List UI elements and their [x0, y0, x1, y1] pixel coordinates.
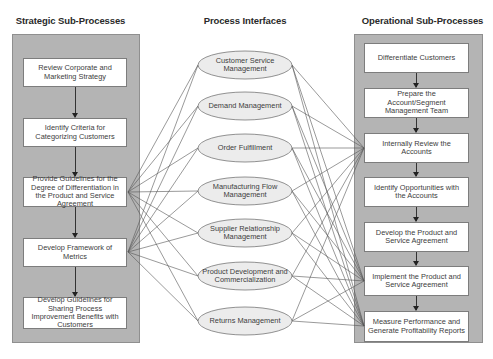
interface-label-4: Supplier Relationship Management	[202, 219, 288, 247]
link-interface-0-operational-5	[292, 65, 364, 281]
link-interface-2-operational-5	[292, 148, 364, 281]
link-strategic-2-interface-3	[128, 191, 198, 192]
link-interface-4-operational-2	[292, 148, 364, 233]
link-strategic-3-interface-6	[128, 252, 198, 321]
link-strategic-2-interface-4	[128, 192, 198, 233]
link-strategic-3-interface-0	[128, 65, 198, 252]
link-interface-1-operational-5	[292, 106, 364, 281]
link-interface-0-operational-6	[292, 65, 364, 326]
interface-label-6: Returns Management	[202, 307, 288, 335]
link-strategic-2-interface-6	[128, 192, 198, 321]
interface-label-3: Manufacturing Flow Management	[202, 177, 288, 205]
interface-label-2: Order Fulfillment	[202, 134, 288, 162]
link-interface-3-operational-6	[292, 191, 364, 326]
link-strategic-2-interface-2	[128, 148, 198, 192]
link-interface-4-operational-6	[292, 233, 364, 326]
link-strategic-2-interface-5	[128, 192, 198, 276]
interface-label-1: Demand Management	[202, 92, 288, 120]
link-interface-5-operational-5	[292, 276, 364, 281]
link-interface-6-operational-6	[292, 321, 364, 326]
link-interface-3-operational-2	[292, 148, 364, 191]
link-strategic-3-interface-5	[128, 252, 198, 276]
link-interface-1-operational-2	[292, 106, 364, 148]
link-interface-1-operational-6	[292, 106, 364, 326]
interface-label-5: Product Development and Commercializatio…	[202, 262, 288, 290]
interface-label-0: Customer Service Management	[202, 51, 288, 79]
link-interface-5-operational-6	[292, 276, 364, 326]
link-interface-3-operational-5	[292, 191, 364, 281]
link-interface-0-operational-2	[292, 65, 364, 148]
